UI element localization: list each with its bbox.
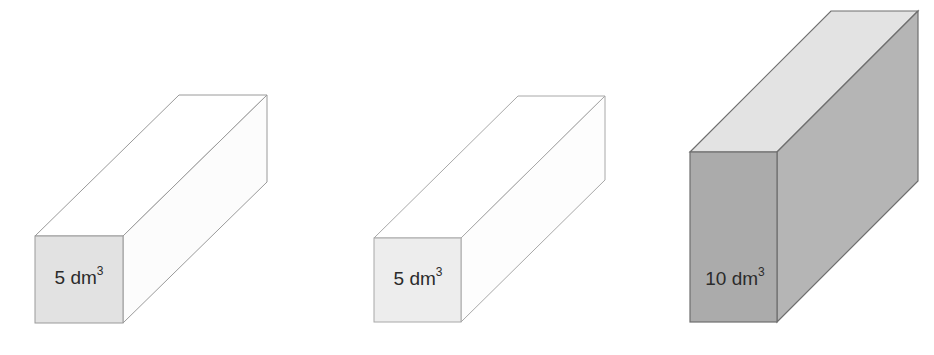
prism-2-label-exponent: 3 bbox=[436, 265, 443, 279]
prism-1-label: 5 dm3 bbox=[55, 264, 104, 288]
figure-canvas: 5 dm3 5 dm3 10 dm3 bbox=[0, 0, 934, 355]
prism-2: 5 dm3 bbox=[374, 96, 605, 322]
prisms-diagram: 5 dm3 5 dm3 10 dm3 bbox=[0, 0, 934, 355]
prism-3-front-face bbox=[690, 152, 777, 322]
prism-3-label-value: 10 bbox=[705, 268, 726, 289]
prism-2-label-value: 5 bbox=[394, 268, 405, 289]
prism-2-label-unit: dm bbox=[409, 268, 435, 289]
prism-3-label-unit: dm bbox=[732, 268, 758, 289]
prism-3-label: 10 dm3 bbox=[705, 265, 765, 289]
prism-1: 5 dm3 bbox=[35, 95, 267, 323]
prism-1-label-exponent: 3 bbox=[97, 264, 104, 278]
prism-1-label-value: 5 bbox=[55, 267, 66, 288]
prism-3-label-exponent: 3 bbox=[758, 265, 765, 279]
prism-1-label-unit: dm bbox=[70, 267, 96, 288]
prism-2-label: 5 dm3 bbox=[394, 265, 443, 289]
prism-3: 10 dm3 bbox=[690, 11, 918, 322]
